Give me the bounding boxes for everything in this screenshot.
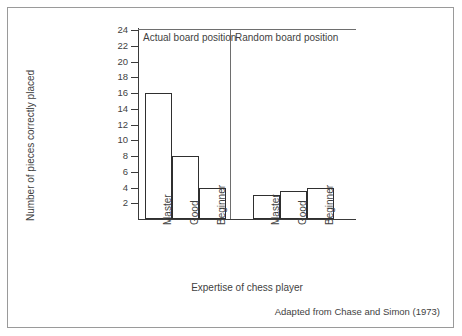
y-tick-label: 10 — [108, 135, 128, 145]
y-tick-label: 22 — [108, 41, 128, 51]
y-tick-label: 6 — [108, 167, 128, 177]
y-tick — [131, 93, 138, 94]
source-note: Adapted from Chase and Simon (1973) — [275, 306, 440, 317]
y-tick-label-wrap: 22 — [108, 41, 128, 42]
y-tick — [131, 125, 138, 126]
y-tick-label-wrap: 20 — [108, 57, 128, 58]
x-axis-title: Expertise of chess player — [138, 282, 356, 293]
y-tick-label: 8 — [108, 151, 128, 161]
y-tick — [131, 109, 138, 110]
y-tick-label: 2 — [108, 198, 128, 208]
y-tick — [131, 62, 138, 63]
y-tick-label: 18 — [108, 72, 128, 82]
y-tick-label: 12 — [108, 120, 128, 130]
y-tick-label-wrap: 18 — [108, 72, 128, 73]
y-tick — [131, 172, 138, 173]
panel-divider — [230, 29, 231, 219]
y-tick-label-wrap: 8 — [108, 151, 128, 152]
panel-rule-actual — [138, 29, 230, 30]
chart-figure: 24681012141618202224 Number of pieces co… — [0, 0, 462, 336]
x-category-label: Master — [271, 194, 281, 225]
y-tick-label-wrap: 4 — [108, 183, 128, 184]
x-category-label: Good — [298, 201, 308, 225]
y-tick-label-wrap: 10 — [108, 135, 128, 136]
y-axis-title: Number of pieces correctly placed — [25, 51, 36, 241]
y-tick — [131, 140, 138, 141]
y-tick — [131, 77, 138, 78]
y-tick-label-wrap: 14 — [108, 104, 128, 105]
y-tick-label-wrap: 16 — [108, 88, 128, 89]
y-tick — [131, 203, 138, 204]
y-tick-label: 20 — [108, 57, 128, 67]
y-tick — [131, 156, 138, 157]
y-tick-label: 4 — [108, 183, 128, 193]
y-tick-label-wrap: 12 — [108, 120, 128, 121]
y-tick-label-wrap: 6 — [108, 167, 128, 168]
y-tick — [131, 30, 138, 31]
y-tick — [131, 46, 138, 47]
panel-title-actual: Actual board position — [143, 33, 236, 43]
y-tick-label: 16 — [108, 88, 128, 98]
x-category-label: Good — [190, 201, 200, 225]
x-category-label: Beginner — [217, 185, 227, 225]
x-category-label: Beginner — [325, 185, 335, 225]
x-category-label: Master — [163, 194, 173, 225]
y-tick-label-wrap: 24 — [108, 25, 128, 26]
y-tick-label: 14 — [108, 104, 128, 114]
y-tick — [131, 188, 138, 189]
y-tick-label: 24 — [108, 25, 128, 35]
panel-title-random: Random board position — [235, 33, 338, 43]
y-tick-label-wrap: 2 — [108, 198, 128, 199]
y-axis-line — [138, 28, 139, 220]
panel-rule-random — [230, 29, 356, 30]
